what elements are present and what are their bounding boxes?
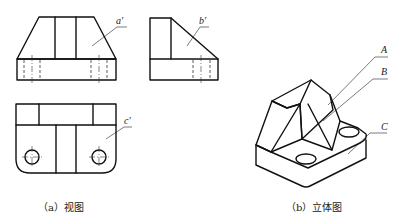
drawing-canvas: a′ b′ c′ A B C （a）视图 （b）立体图 [0, 0, 400, 222]
label-c-prime: c′ [124, 115, 131, 126]
front-view [17, 17, 127, 84]
side-view [150, 18, 218, 84]
top-view [16, 104, 132, 173]
isometric-view [256, 57, 388, 187]
engineering-drawing [0, 0, 400, 222]
label-b: B [381, 66, 387, 77]
caption-isometric: （b）立体图 [286, 199, 342, 214]
label-a: A [381, 44, 387, 55]
label-c: C [381, 121, 388, 132]
label-a-prime: a′ [116, 15, 123, 26]
label-b-prime: b′ [199, 15, 206, 26]
caption-views: （a）视图 [38, 199, 84, 214]
